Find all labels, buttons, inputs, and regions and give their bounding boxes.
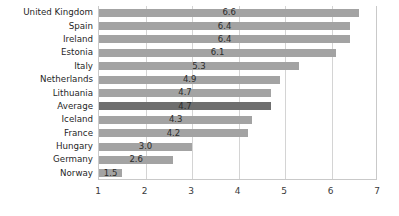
- bar-value-label: 3.0: [139, 140, 153, 153]
- bar-value-label: 6.4: [218, 33, 232, 46]
- category-label-iceland: Iceland: [0, 114, 93, 125]
- x-tick-label-2: 2: [142, 186, 148, 196]
- bar-row: 3.0: [99, 140, 376, 153]
- bar-value-label: 4.7: [178, 86, 192, 99]
- bar-row: 6.4: [99, 33, 376, 46]
- bar-value-label: 6.1: [211, 46, 225, 59]
- category-axis-labels: United KingdomSpainIrelandEstoniaItalyNe…: [0, 6, 93, 180]
- plot-area: 6.66.46.46.15.34.94.74.74.34.23.02.61.5: [98, 6, 377, 180]
- category-label-france: France: [0, 128, 93, 139]
- bar-row: 4.7: [99, 86, 376, 99]
- category-label-spain: Spain: [0, 21, 93, 32]
- category-label-italy: Italy: [0, 61, 93, 72]
- bar-value-label: 6.6: [222, 6, 236, 19]
- bar-value-label: 4.3: [169, 113, 183, 126]
- category-label-germany: Germany: [0, 154, 93, 165]
- x-tick-label-7: 7: [374, 186, 380, 196]
- bar-chart: United KingdomSpainIrelandEstoniaItalyNe…: [0, 0, 399, 216]
- x-tick-label-4: 4: [235, 186, 241, 196]
- category-label-hungary: Hungary: [0, 141, 93, 152]
- bar-row: 6.1: [99, 46, 376, 59]
- bar-row: 5.3: [99, 60, 376, 73]
- bar-row: 4.2: [99, 126, 376, 139]
- bar-value-label: 4.7: [178, 100, 192, 113]
- x-tick-label-3: 3: [188, 186, 194, 196]
- bar-value-label: 2.6: [129, 153, 143, 166]
- bar-value-label: 5.3: [192, 60, 206, 73]
- bar-row: 6.6: [99, 6, 376, 19]
- category-label-estonia: Estonia: [0, 47, 93, 58]
- bar-row: 4.7: [99, 100, 376, 113]
- bar-row: 2.6: [99, 153, 376, 166]
- x-tick-label-6: 6: [328, 186, 334, 196]
- category-label-united-kingdom: United Kingdom: [0, 7, 93, 18]
- bar-row: 4.9: [99, 73, 376, 86]
- bar-value-label: 4.2: [167, 127, 181, 140]
- x-tick-label-5: 5: [281, 186, 287, 196]
- category-label-netherlands: Netherlands: [0, 74, 93, 85]
- bar-rows: 6.66.46.46.15.34.94.74.74.34.23.02.61.5: [99, 6, 376, 179]
- bar-value-label: 1.5: [104, 167, 118, 180]
- category-label-average: Average: [0, 101, 93, 112]
- bar-value-label: 4.9: [183, 73, 197, 86]
- bar-value-label: 6.4: [218, 20, 232, 33]
- category-label-ireland: Ireland: [0, 34, 93, 45]
- bar-row: 1.5: [99, 167, 376, 180]
- bar-row: 4.3: [99, 113, 376, 126]
- x-tick-label-1: 1: [95, 186, 101, 196]
- category-label-lithuania: Lithuania: [0, 88, 93, 99]
- bar-row: 6.4: [99, 19, 376, 32]
- category-label-norway: Norway: [0, 168, 93, 179]
